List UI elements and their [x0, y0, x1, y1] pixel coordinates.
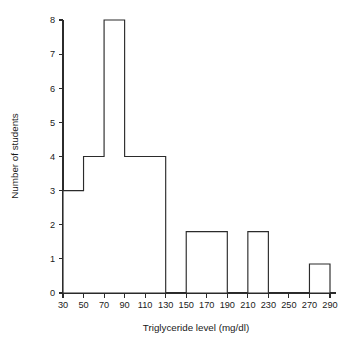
y-tick-label-group: 012345678: [50, 15, 55, 298]
y-tick-label-2: 2: [50, 220, 55, 230]
x-tick-label-50: 50: [78, 300, 88, 310]
x-tick-label-210: 210: [240, 300, 255, 310]
y-tick-label-1: 1: [50, 254, 55, 264]
y-tick-label-5: 5: [50, 118, 55, 128]
x-tick-label-230: 230: [261, 300, 276, 310]
histogram-bar-210-230: [248, 232, 269, 293]
x-axis: 30507090110130150170190210230250270290: [58, 293, 338, 310]
x-tick-label-90: 90: [119, 300, 129, 310]
y-tick-label-8: 8: [50, 15, 55, 25]
x-tick-label-270: 270: [302, 300, 317, 310]
y-axis-title: Number of students: [9, 113, 20, 199]
triglyceride-histogram: 012345678 305070901101301501701902102302…: [0, 0, 352, 350]
x-tick-label-110: 110: [138, 300, 153, 310]
y-tick-label-3: 3: [50, 186, 55, 196]
y-tick-label-4: 4: [50, 152, 55, 162]
y-tick-group: [59, 20, 64, 293]
x-tick-label-290: 290: [322, 300, 337, 310]
x-tick-label-190: 190: [220, 300, 235, 310]
x-axis-title: Triglyceride level (mg/dl): [143, 322, 249, 333]
x-tick-label-group: 30507090110130150170190210230250270290: [58, 300, 338, 310]
x-tick-label-130: 130: [158, 300, 173, 310]
histogram-bar-270-290: [309, 264, 330, 293]
x-tick-label-70: 70: [99, 300, 109, 310]
x-tick-label-170: 170: [199, 300, 214, 310]
x-tick-group: [63, 293, 330, 298]
y-tick-label-6: 6: [50, 84, 55, 94]
x-tick-label-30: 30: [58, 300, 68, 310]
histogram-bar-150-190: [186, 232, 227, 293]
histogram-figure: 012345678 305070901101301501701902102302…: [0, 0, 352, 350]
histogram-bar-30-130: [63, 20, 166, 293]
y-axis: 012345678: [50, 15, 63, 298]
y-tick-label-0: 0: [50, 288, 55, 298]
y-tick-label-7: 7: [50, 49, 55, 59]
histogram-bars: [63, 20, 330, 293]
x-tick-label-150: 150: [179, 300, 194, 310]
x-tick-label-250: 250: [281, 300, 296, 310]
